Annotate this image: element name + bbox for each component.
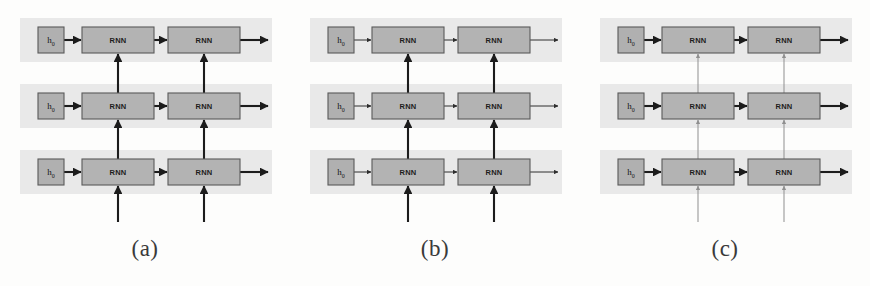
- rnn-cell-label-r1-t2: RNN: [195, 102, 212, 111]
- panel-c: h0RNNRNNh0RNNRNNh0RNNRNN (c): [580, 0, 870, 286]
- rnn-cell-label-r0-t1: RNN: [109, 36, 126, 45]
- rnn-cell-label-r1-t2: RNN: [485, 102, 502, 111]
- rnn-cell-label-r1-t1: RNN: [689, 102, 706, 111]
- rnn-cell-label-r0-t1: RNN: [689, 36, 706, 45]
- panel-caption-c: (c): [580, 236, 870, 262]
- rnn-cell-label-r1-t1: RNN: [399, 102, 416, 111]
- rnn-cell-label-r0-t2: RNN: [485, 36, 502, 45]
- rnn-cell-label-r1-t1: RNN: [109, 102, 126, 111]
- rnn-cell-label-r2-t1: RNN: [689, 168, 706, 177]
- rnn-cell-label-r0-t1: RNN: [399, 36, 416, 45]
- panel-b: h0RNNRNNh0RNNRNNh0RNNRNN (b): [290, 0, 580, 286]
- panel-caption-b: (b): [290, 236, 580, 262]
- panel-caption-a: (a): [0, 236, 290, 262]
- rnn-cell-label-r0-t2: RNN: [195, 36, 212, 45]
- panel-a: h0RNNRNNh0RNNRNNh0RNNRNN (a): [0, 0, 290, 286]
- rnn-cell-label-r2-t2: RNN: [195, 168, 212, 177]
- rnn-cell-label-r0-t2: RNN: [775, 36, 792, 45]
- rnn-cell-label-r1-t2: RNN: [775, 102, 792, 111]
- rnn-cell-label-r2-t2: RNN: [485, 168, 502, 177]
- rnn-cell-label-r2-t1: RNN: [399, 168, 416, 177]
- rnn-cell-label-r2-t1: RNN: [109, 168, 126, 177]
- rnn-cell-label-r2-t2: RNN: [775, 168, 792, 177]
- rnn-architecture-figure: h0RNNRNNh0RNNRNNh0RNNRNN (a) h0RNNRNNh0R…: [0, 0, 870, 286]
